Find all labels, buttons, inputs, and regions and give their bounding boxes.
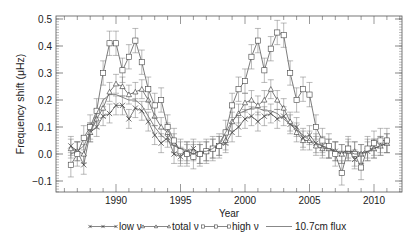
series-layer <box>68 20 390 185</box>
axes-layer: −0.10.00.10.20.30.40.5199019952000200520… <box>32 14 402 207</box>
y-tick-label: 0.2 <box>38 95 52 106</box>
y-tick-label: 0.4 <box>38 41 52 52</box>
y-tick-label: 0.0 <box>38 149 52 160</box>
frequency-shift-chart: −0.10.00.10.20.30.40.5199019952000200520… <box>0 0 414 241</box>
y-axis-label: Frequency shift (μHz) <box>14 54 26 155</box>
legend-item: 10.7cm flux <box>266 221 346 232</box>
legend-label: low ν <box>119 221 142 232</box>
x-tick-label: 1990 <box>105 195 128 206</box>
legend-item: total ν <box>141 221 198 232</box>
x-tick-label: 2010 <box>363 195 386 206</box>
y-tick-label: 0.3 <box>38 68 52 79</box>
legend: low νtotal νhigh ν10.7cm flux <box>88 221 346 232</box>
y-tick-label: 0.5 <box>38 14 52 25</box>
y-tick-label: −0.1 <box>32 176 52 187</box>
x-tick-label: 1995 <box>169 195 192 206</box>
legend-item: low ν <box>88 221 141 232</box>
legend-label: total ν <box>172 221 199 232</box>
y-tick-label: 0.1 <box>38 122 52 133</box>
x-axis-label: Year <box>219 208 240 219</box>
legend-label: 10.7cm flux <box>295 221 346 232</box>
legend-label: high ν <box>232 221 259 232</box>
x-tick-label: 2000 <box>234 195 257 206</box>
x-tick-label: 2005 <box>298 195 321 206</box>
legend-item: high ν <box>201 221 258 232</box>
